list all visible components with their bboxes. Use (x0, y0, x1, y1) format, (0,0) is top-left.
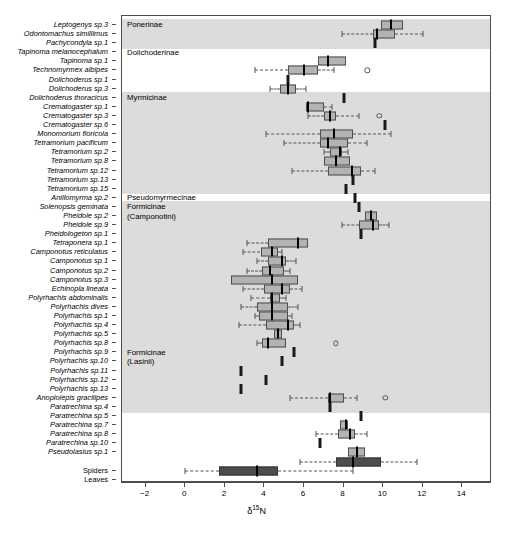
whisker-lower-10 (308, 115, 324, 116)
whisker-upper-10 (336, 115, 360, 116)
plot-area: PonerinaeDolichoderinaeMyrmicinaePseudom… (121, 15, 491, 482)
group-label-formicinae-camponotini: Formicinae (Camponotini) (127, 202, 176, 221)
x-tick-4 (303, 482, 304, 487)
y-label-34: Polyrhachis sp.5 (54, 329, 108, 338)
whisker-cap-upper-45 (367, 431, 368, 437)
y-label-16: Tetramorium sp.12 (47, 165, 108, 174)
whisker-upper-16 (361, 170, 375, 171)
y-tick-18 (112, 188, 116, 189)
y-tick-33 (112, 324, 116, 325)
x-tick-8 (461, 482, 462, 487)
whisker-lower-31 (241, 306, 257, 307)
x-axis: −202468101214 (121, 482, 491, 483)
y-label-30: Polyrhachis abdominalis (28, 292, 108, 301)
x-axis-line (121, 482, 491, 483)
y-label-45: Paratrechina sp.8 (50, 429, 108, 438)
whisker-cap-upper-10 (359, 113, 360, 119)
y-tick-32 (112, 315, 116, 316)
whisker-upper-49 (278, 470, 353, 471)
y-label-41: Anoplolepis gracilipes (37, 392, 109, 401)
whisker-upper-5 (318, 70, 334, 71)
x-tick-1 (184, 482, 185, 487)
whisker-cap-lower-12 (266, 131, 267, 137)
y-tick-31 (112, 306, 116, 307)
whisker-cap-upper-12 (391, 131, 392, 137)
y-tick-28 (112, 279, 116, 280)
y-tick-24 (112, 242, 116, 243)
median-45 (349, 429, 351, 440)
plot-inner: PonerinaeDolichoderinaeMyrmicinaePseudom… (122, 16, 490, 481)
group-label-dolichoderinae: Dolichoderinae (127, 48, 179, 58)
y-tick-3 (112, 51, 116, 52)
whisker-upper-45 (355, 434, 367, 435)
y-tick-22 (112, 224, 116, 225)
whisker-cap-lower-14 (323, 149, 324, 155)
y-label-29: Echinopla lineata (52, 283, 108, 292)
whisker-cap-lower-33 (238, 322, 239, 328)
y-tick-5 (112, 69, 116, 70)
whisker-upper-41 (344, 397, 358, 398)
y-label-14: Tetramorium sp.2 (51, 147, 108, 156)
median-9 (307, 101, 309, 112)
group-label-formicinae-lasiini: Formicinae (Lasinii) (127, 348, 166, 367)
whisker-lower-49 (185, 470, 219, 471)
whisker-cap-upper-33 (300, 322, 301, 328)
x-tick-3 (263, 482, 264, 487)
whisker-cap-lower-26 (256, 258, 257, 264)
whisker-cap-upper-16 (375, 168, 376, 174)
median-49 (256, 465, 258, 476)
y-tick-12 (112, 133, 116, 134)
whisker-cap-upper-22 (389, 222, 390, 228)
y-tick-14 (112, 151, 116, 152)
whisker-lower-12 (266, 134, 319, 135)
median-7 (287, 83, 289, 94)
y-label-44: Paratrechina sp.7 (50, 420, 108, 429)
whisker-cap-upper-25 (282, 249, 283, 255)
box-45 (338, 430, 356, 439)
y-tick-45 (112, 433, 116, 434)
x-tick-label-7: 12 (417, 489, 426, 498)
median-13 (327, 138, 329, 149)
box-35 (262, 339, 286, 348)
whisker-upper-1 (395, 34, 423, 35)
median-5 (303, 65, 305, 76)
whisker-cap-upper-32 (292, 313, 293, 319)
whisker-cap-lower-49 (185, 468, 186, 474)
x-axis-title-element: N (259, 506, 266, 516)
x-tick-label-6: 10 (378, 489, 387, 498)
whisker-cap-lower-29 (242, 286, 243, 292)
y-tick-8 (112, 97, 116, 98)
y-tick-42 (112, 406, 116, 407)
whisker-cap-lower-48 (300, 459, 301, 465)
y-label-1: Odontomachus simillimus (24, 29, 108, 38)
whisker-lower-5 (255, 70, 289, 71)
median-48 (352, 456, 354, 467)
y-tick-17 (112, 179, 116, 180)
x-tick-label-5: 8 (340, 489, 344, 498)
y-label-18: Tetramorium sp.15 (47, 183, 108, 192)
median-35 (267, 338, 269, 349)
y-label-12: Monomorium floricola (37, 129, 108, 138)
y-label-35: Polyrhachis sp.8 (54, 338, 108, 347)
whisker-lower-33 (239, 325, 267, 326)
y-label-20: Solenopsis geminata (39, 201, 108, 210)
y-tick-10 (112, 115, 116, 116)
x-tick-2 (224, 482, 225, 487)
whisker-cap-upper-26 (296, 258, 297, 264)
y-tick-7 (112, 88, 116, 89)
y-label-0: Leptogenys sp.3 (54, 20, 108, 29)
y-tick-26 (112, 260, 116, 261)
y-axis-labels: Leptogenys sp.3Odontomachus simillimusPa… (0, 15, 116, 482)
box-single-18 (344, 184, 347, 194)
whisker-cap-lower-7 (270, 86, 271, 92)
y-label-8: Dolichoderus thoracicus (29, 92, 108, 101)
whisker-cap-lower-30 (250, 295, 251, 301)
box-single-40 (239, 384, 242, 394)
x-tick-label-4: 6 (301, 489, 305, 498)
y-tick-20 (112, 206, 116, 207)
median-33 (287, 320, 289, 331)
y-tick-47 (112, 451, 116, 452)
box-16 (328, 166, 362, 175)
y-label-21: Pheidole sp.2 (63, 210, 108, 219)
whisker-cap-upper-9 (331, 104, 332, 110)
